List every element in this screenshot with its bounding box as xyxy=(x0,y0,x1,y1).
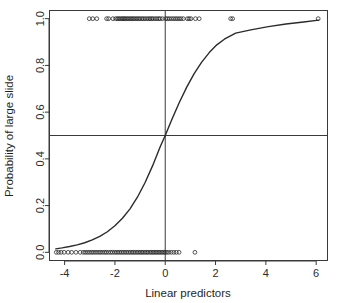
y-axis-title: Probability of large slide xyxy=(3,75,15,197)
x-tick-label: -4 xyxy=(60,267,70,279)
y-tick-label: 1.0 xyxy=(35,11,47,26)
x-axis-title: Linear predictors xyxy=(145,287,231,299)
y-tick-label: 0.2 xyxy=(35,198,47,213)
x-tick-label: 4 xyxy=(263,267,269,279)
plot-canvas: -4-20246 0.00.20.40.60.81.0 Linear predi… xyxy=(0,0,339,303)
y-tick-label: 0.8 xyxy=(35,58,47,73)
x-tick-label: 2 xyxy=(212,267,218,279)
logistic-regression-plot: -4-20246 0.00.20.40.60.81.0 Linear predi… xyxy=(0,0,339,303)
plot-background xyxy=(0,0,339,303)
y-tick-label: 0.0 xyxy=(35,245,47,260)
x-tick-label: 6 xyxy=(313,267,319,279)
x-tick-label: 0 xyxy=(162,267,168,279)
y-tick-label: 0.4 xyxy=(35,151,47,166)
y-tick-label: 0.6 xyxy=(35,104,47,119)
x-tick-label: -2 xyxy=(110,267,120,279)
